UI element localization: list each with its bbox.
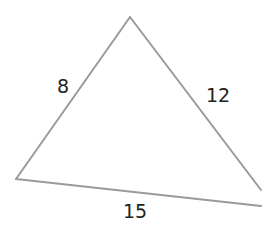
side-left-line xyxy=(16,17,130,179)
side-right-line xyxy=(130,17,261,190)
side-left-label: 8 xyxy=(57,75,69,97)
triangle-diagram: 8 12 15 xyxy=(0,0,266,231)
side-bottom-label: 15 xyxy=(123,200,147,222)
side-right-label: 12 xyxy=(206,84,230,106)
